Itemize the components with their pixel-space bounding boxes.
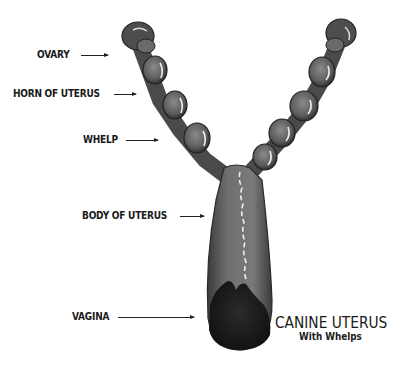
arrow-ovary	[81, 55, 108, 56]
right-whelp-4	[253, 144, 277, 170]
label-whelp: WHELP	[83, 134, 118, 146]
label-body-of-uterus: BODY OF UTERUS	[82, 210, 167, 222]
left-whelp-2	[163, 91, 187, 119]
arrow-vagina	[118, 317, 194, 318]
right-whelp-1	[309, 57, 335, 87]
left-whelp-1	[143, 56, 167, 84]
arrow-horn-of-uterus	[114, 94, 136, 95]
right-whelp-3	[269, 119, 295, 147]
arrow-body-of-uterus	[180, 216, 204, 217]
arrow-whelp	[126, 140, 158, 141]
label-horn-of-uterus: HORN OF UTERUS	[13, 88, 100, 100]
figure-title: CANINE UTERUS	[275, 313, 387, 332]
figure-subtitle: With Whelps	[299, 331, 362, 342]
diagram-canvas: OVARY HORN OF UTERUS WHELP BODY OF UTERU…	[0, 0, 402, 367]
label-ovary: OVARY	[37, 49, 70, 61]
label-vagina: VAGINA	[72, 311, 109, 323]
left-whelp-3	[184, 123, 210, 153]
right-whelp-2	[290, 91, 318, 121]
